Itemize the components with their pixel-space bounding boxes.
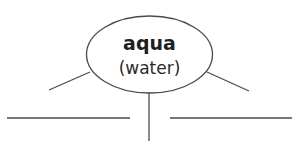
center-word: aqua	[123, 32, 176, 54]
word-web-diagram: aqua (water)	[0, 0, 300, 164]
right-diagonal-branch	[207, 72, 249, 91]
center-ellipse	[87, 16, 213, 93]
left-diagonal-branch	[49, 72, 90, 90]
center-meaning: (water)	[119, 58, 181, 78]
